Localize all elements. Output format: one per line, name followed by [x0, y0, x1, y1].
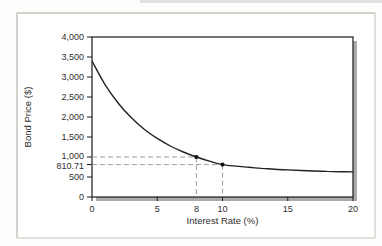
- y-tick-label: 810.71: [56, 161, 84, 171]
- y-tick-label: 3,500: [61, 52, 84, 62]
- y-tick-label: 2,500: [61, 92, 84, 102]
- x-axis-title: Interest Rate (%): [187, 215, 259, 226]
- x-tick-label: 10: [217, 204, 227, 214]
- x-tick-label: 15: [283, 204, 293, 214]
- x-tick-label: 8: [194, 204, 199, 214]
- y-tick-label: 1,000: [61, 151, 84, 161]
- x-tick-label: 20: [348, 204, 358, 214]
- y-tick-label: 1,500: [61, 132, 84, 142]
- y-axis: 0500810.711,0001,5002,0002,5003,0003,500…: [56, 32, 92, 202]
- y-tick-label: 4,000: [61, 32, 84, 42]
- data-point: [220, 162, 224, 166]
- data-point: [194, 155, 198, 159]
- y-tick-label: 3,000: [61, 72, 84, 82]
- y-axis-title: Bond Price ($): [22, 87, 33, 148]
- y-tick-label: 2,000: [61, 112, 84, 122]
- x-tick-label: 0: [89, 204, 94, 214]
- bond-price-vs-interest-rate-chart: 0500810.711,0001,5002,0002,5003,0003,500…: [0, 0, 382, 246]
- x-tick-label: 5: [155, 204, 160, 214]
- y-tick-label: 500: [69, 172, 84, 182]
- y-tick-label: 0: [79, 192, 84, 202]
